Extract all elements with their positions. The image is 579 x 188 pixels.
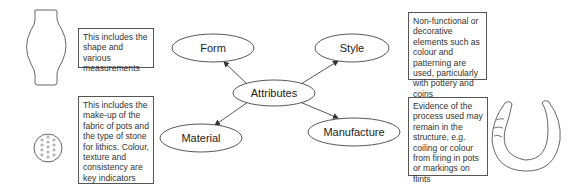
form-description-text: This includes the shape and various meas…: [83, 32, 148, 73]
edge-attributes-manufacture: [300, 102, 338, 118]
vase-outline-icon: [27, 10, 67, 85]
form-description-box: This includes the shape and various meas…: [78, 28, 154, 68]
node-attributes-label: Attributes: [251, 87, 298, 99]
attributes-diagram: Form Style Attributes Material Manufactu…: [0, 0, 579, 188]
node-manufacture-label: Manufacture: [323, 126, 384, 138]
coiled-pot-section-icon: [492, 101, 560, 171]
node-form-label: Form: [200, 42, 226, 54]
edge-attributes-material: [215, 102, 248, 125]
manufacture-description-box: Evidence of the process used may remain …: [408, 97, 488, 176]
material-description-box: This includes the make-up of the fabric …: [78, 96, 154, 184]
node-material: Material: [160, 124, 242, 152]
style-description-box: Non-functional or decorative elements su…: [408, 12, 487, 80]
edge-attributes-form: [224, 62, 247, 84]
node-attributes: Attributes: [233, 80, 315, 106]
material-description-text: This includes the make-up of the fabric …: [83, 100, 149, 183]
node-style-label: Style: [340, 42, 364, 54]
node-style: Style: [315, 34, 389, 62]
style-description-text: Non-functional or decorative elements su…: [413, 16, 480, 99]
manufacture-description-text: Evidence of the process used may remain …: [413, 101, 483, 184]
node-form: Form: [172, 34, 254, 62]
node-manufacture: Manufacture: [308, 118, 400, 146]
dotted-circle-sample-icon: [34, 134, 62, 162]
edge-attributes-style: [301, 61, 338, 84]
node-material-label: Material: [181, 132, 220, 144]
